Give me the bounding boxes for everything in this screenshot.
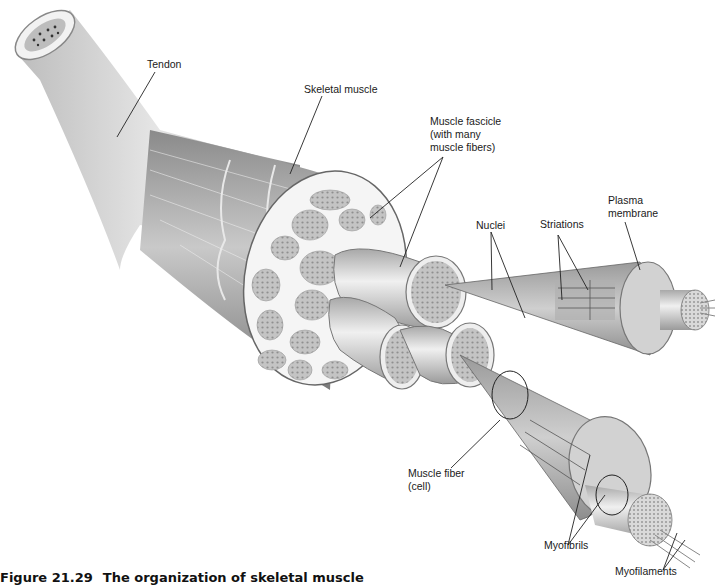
label-muscle-fiber: Muscle fiber (cell) (408, 467, 465, 493)
label-striations: Striations (540, 218, 584, 231)
label-nuclei: Nuclei (476, 219, 505, 232)
label-plasma-membrane: Plasma membrane (608, 194, 658, 220)
label-myofibrils: Myofibrils (544, 539, 588, 552)
figure-caption: Figure 21.29The organization of skeletal… (0, 570, 364, 585)
caption-title: The organization of skeletal muscle (103, 570, 364, 585)
caption-number: Figure 21.29 (0, 570, 93, 585)
label-tendon: Tendon (147, 58, 181, 71)
lower-muscle-fiber (460, 355, 700, 568)
label-skeletal-muscle: Skeletal muscle (304, 83, 378, 96)
label-myofilaments: Myofilaments (615, 565, 677, 578)
label-muscle-fascicle: Muscle fascicle (with many muscle fibers… (430, 115, 501, 154)
